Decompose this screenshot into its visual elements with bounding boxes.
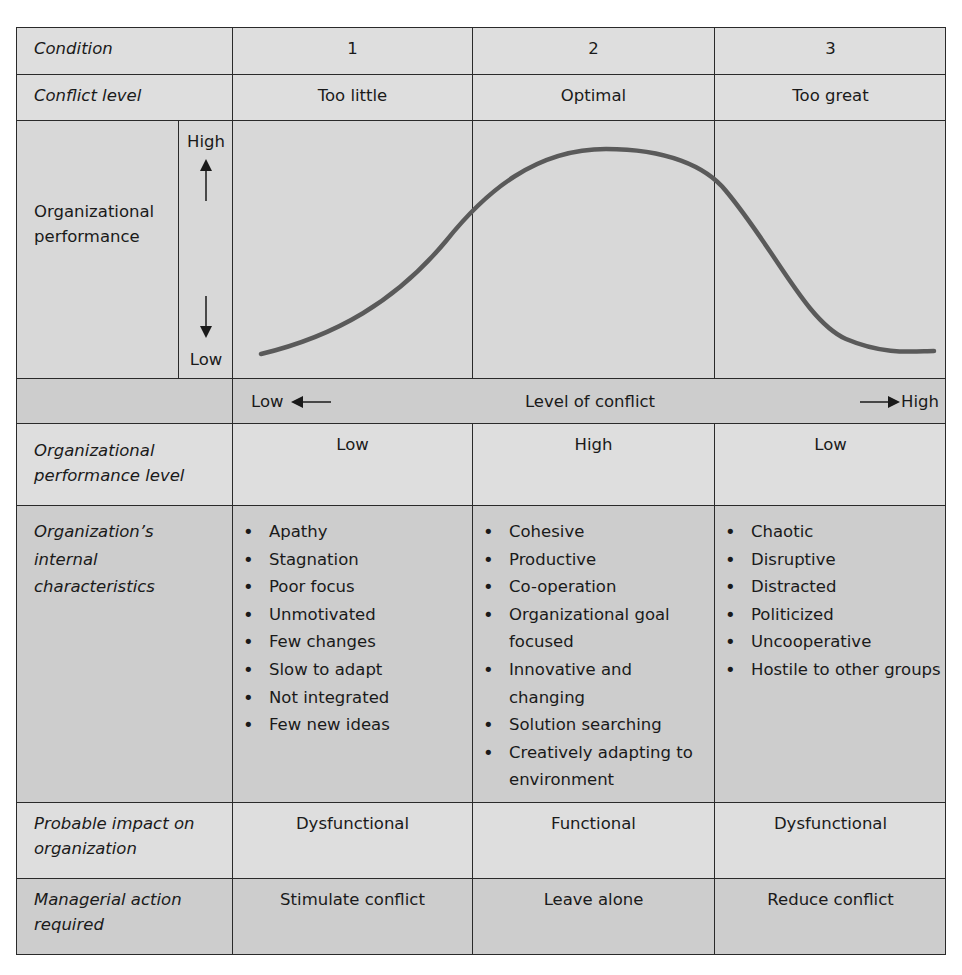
characteristic-item: Productive xyxy=(473,546,710,574)
row-probable-impact: Probable impact on organization Dysfunct… xyxy=(16,802,946,878)
conflict-axis: Low Level of conflict High xyxy=(232,379,946,423)
characteristic-item: Apathy xyxy=(233,518,472,546)
row-conflict-axis: Low Level of conflict High xyxy=(16,378,946,423)
characteristic-item: Poor focus xyxy=(233,573,472,601)
characteristic-item: Uncooperative xyxy=(715,628,942,656)
row-internal-characteristics: Organization’s internal characteristics … xyxy=(16,505,946,802)
characteristic-item: Disruptive xyxy=(715,546,942,574)
row-managerial-action: Managerial action required Stimulate con… xyxy=(16,878,946,955)
row-label-performance-level: Organizational performance level xyxy=(16,424,232,505)
characteristic-item: Organizational goal focused xyxy=(473,601,710,656)
characteristics-col-3: ChaoticDisruptiveDistractedPoliticizedUn… xyxy=(714,506,946,802)
condition-3: 3 xyxy=(714,28,946,74)
characteristic-item: Few changes xyxy=(233,628,472,656)
characteristic-item: Chaotic xyxy=(715,518,942,546)
probable-impact-3: Dysfunctional xyxy=(714,803,946,878)
row-label-internal-characteristics: Organization’s internal characteristics xyxy=(16,506,232,802)
characteristic-item: Co-operation xyxy=(473,573,710,601)
conflict-level-2: Optimal xyxy=(472,75,714,120)
row-condition: Condition 1 2 3 xyxy=(16,27,946,74)
managerial-action-3: Reduce conflict xyxy=(714,879,946,955)
row-label-condition: Condition xyxy=(16,28,232,74)
characteristics-col-1: ApathyStagnationPoor focusUnmotivatedFew… xyxy=(232,506,472,802)
conflict-level-3: Too great xyxy=(714,75,946,120)
x-axis-title: Level of conflict xyxy=(233,389,947,414)
characteristic-item: Few new ideas xyxy=(233,711,472,739)
characteristic-item: Slow to adapt xyxy=(233,656,472,684)
row-label-managerial-action: Managerial action required xyxy=(16,879,232,955)
characteristics-list-2: CohesiveProductiveCo-operationOrganizati… xyxy=(473,518,710,794)
characteristic-item: Hostile to other groups xyxy=(715,656,942,684)
row-performance-level: Organizational performance level Low Hig… xyxy=(16,423,946,505)
characteristics-list-3: ChaoticDisruptiveDistractedPoliticizedUn… xyxy=(715,518,942,684)
performance-level-2: High xyxy=(472,424,714,505)
x-axis-high-label: High xyxy=(901,389,939,414)
performance-level-1: Low xyxy=(232,424,472,505)
characteristic-item: Politicized xyxy=(715,601,942,629)
row-label-conflict-level: Conflict level xyxy=(16,75,232,120)
characteristic-item: Solution searching xyxy=(473,711,710,739)
characteristics-list-1: ApathyStagnationPoor focusUnmotivatedFew… xyxy=(233,518,472,739)
condition-1: 1 xyxy=(232,28,472,74)
conflict-level-1: Too little xyxy=(232,75,472,120)
characteristics-col-2: CohesiveProductiveCo-operationOrganizati… xyxy=(472,506,714,802)
conflict-performance-table: Condition 1 2 3 Conflict level Too littl… xyxy=(16,27,946,955)
row-conflict-level: Conflict level Too little Optimal Too gr… xyxy=(16,74,946,120)
characteristic-item: Stagnation xyxy=(233,546,472,574)
characteristic-item: Unmotivated xyxy=(233,601,472,629)
characteristic-item: Cohesive xyxy=(473,518,710,546)
performance-level-3: Low xyxy=(714,424,946,505)
arrow-right-icon xyxy=(860,395,900,409)
performance-curve xyxy=(16,121,946,379)
probable-impact-2: Functional xyxy=(472,803,714,878)
characteristic-item: Creatively adapting to environment xyxy=(473,739,710,794)
managerial-action-2: Leave alone xyxy=(472,879,714,955)
row-label-probable-impact: Probable impact on organization xyxy=(16,803,232,878)
probable-impact-1: Dysfunctional xyxy=(232,803,472,878)
conflict-axis-empty xyxy=(16,379,232,423)
managerial-action-1: Stimulate conflict xyxy=(232,879,472,955)
condition-2: 2 xyxy=(472,28,714,74)
characteristic-item: Not integrated xyxy=(233,684,472,712)
characteristic-item: Innovative and changing xyxy=(473,656,710,711)
characteristic-item: Distracted xyxy=(715,573,942,601)
row-performance-chart: Organizational performance High Low xyxy=(16,120,946,378)
